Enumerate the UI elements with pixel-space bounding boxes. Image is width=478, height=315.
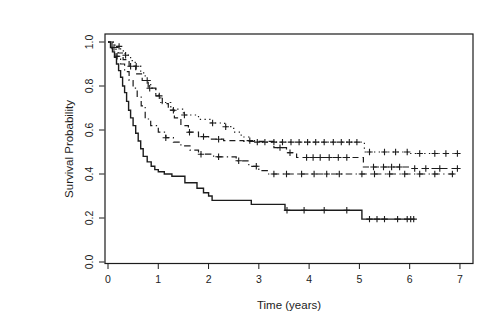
plot-frame [105,34,473,264]
curve-dotted-group [108,42,459,154]
x-tick-label: 0 [105,273,111,285]
y-tick-label: 0.6 [83,123,95,138]
censor-marks-dotdash-group [114,53,456,177]
curve-dashed-group [108,42,461,169]
censor-marks-solid-group [284,207,417,222]
x-tick-label: 1 [155,273,161,285]
x-tick-label: 7 [457,273,463,285]
survival-curves [108,42,461,222]
x-axis-title: Time (years) [257,299,321,311]
y-tick-label: 0.0 [83,255,95,270]
y-tick-label: 0.2 [83,211,95,226]
censor-marks-dotted-group [116,43,461,157]
curve-solid-group [108,42,415,219]
curve-dotdash-group [108,42,454,174]
axis-ticks: 012345670.00.20.40.60.81.0 [83,35,464,285]
y-tick-label: 0.4 [83,167,95,182]
y-tick-label: 0.8 [83,79,95,94]
plot-canvas: 012345670.00.20.40.60.81.0 Time (years) … [40,16,478,315]
kaplan-meier-survival-chart: 012345670.00.20.40.60.81.0 Time (years) … [40,16,478,315]
y-axis-title: Survival Probability [63,100,75,198]
x-tick-label: 6 [407,273,413,285]
x-tick-label: 3 [256,273,262,285]
x-tick-label: 4 [306,273,312,285]
y-tick-label: 1.0 [83,35,95,50]
x-tick-label: 5 [356,273,362,285]
x-tick-label: 2 [206,273,212,285]
